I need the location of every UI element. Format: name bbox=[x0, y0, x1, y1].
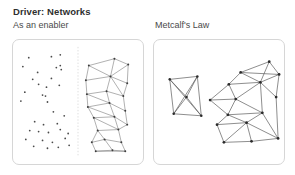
large-network-edge bbox=[260, 82, 262, 113]
panel-metcalfs-law bbox=[153, 39, 285, 165]
scatter-node bbox=[43, 124, 45, 126]
large-network-edge bbox=[241, 72, 279, 74]
left-network-edge bbox=[87, 91, 107, 94]
large-network-edge bbox=[228, 113, 262, 115]
large-network-edge bbox=[224, 141, 252, 142]
scatter-node bbox=[47, 101, 49, 103]
scatter-node bbox=[56, 123, 58, 125]
small-network-node bbox=[185, 96, 188, 99]
left-network-edge bbox=[98, 131, 105, 140]
scatter-node bbox=[52, 141, 54, 143]
scatter-node bbox=[51, 56, 53, 58]
large-network-node bbox=[268, 60, 271, 63]
scatter-node bbox=[22, 66, 24, 68]
large-network-edge bbox=[228, 115, 247, 123]
scatter-node bbox=[45, 95, 47, 97]
large-network-edge bbox=[269, 62, 279, 75]
scatter-node bbox=[55, 67, 57, 69]
left-network-node bbox=[97, 130, 99, 132]
scatter-node bbox=[20, 100, 22, 102]
left-network-node bbox=[126, 82, 128, 84]
left-network-edge bbox=[88, 103, 110, 107]
large-network-node bbox=[226, 113, 229, 116]
scatter-node bbox=[38, 83, 40, 85]
scatter-node bbox=[38, 131, 40, 133]
left-network-edge bbox=[111, 65, 129, 77]
scatter-node bbox=[59, 65, 61, 67]
scatter-node bbox=[25, 139, 27, 141]
large-network-edge bbox=[252, 138, 279, 141]
large-network-node bbox=[275, 96, 278, 99]
large-network-node bbox=[227, 83, 230, 86]
scatter-node bbox=[64, 138, 66, 140]
left-network-edge bbox=[111, 59, 115, 77]
left-network-edge bbox=[94, 117, 115, 118]
left-network-edge bbox=[89, 59, 115, 66]
small-network-edge bbox=[170, 76, 198, 79]
left-network-node bbox=[86, 93, 88, 95]
small-network-node bbox=[172, 113, 175, 116]
large-network-edge bbox=[224, 123, 247, 143]
left-network-edge bbox=[107, 76, 111, 91]
scatter-node bbox=[28, 57, 30, 59]
large-network-edge bbox=[229, 82, 261, 84]
scatter-node bbox=[47, 147, 49, 149]
scatter-node bbox=[57, 146, 59, 148]
small-network-node bbox=[168, 78, 171, 81]
large-network-edge bbox=[210, 100, 228, 115]
large-network-node bbox=[209, 99, 212, 102]
large-network-edge bbox=[229, 72, 241, 84]
left-network-node bbox=[113, 116, 115, 118]
scatter-node bbox=[58, 84, 60, 86]
large-network-node bbox=[250, 140, 253, 143]
large-network-edge bbox=[260, 82, 276, 97]
left-network-node bbox=[109, 102, 111, 104]
slide-canvas: Driver: Networks As an enabler Metcalf's… bbox=[0, 0, 295, 175]
small-network-edge bbox=[197, 76, 201, 115]
scatter-node bbox=[29, 130, 31, 132]
left-network-edge bbox=[107, 91, 110, 103]
left-network-node bbox=[93, 117, 95, 119]
left-network-edge bbox=[127, 65, 128, 84]
large-network-edge bbox=[228, 99, 236, 115]
right-panel-caption: Metcalf's Law bbox=[155, 20, 209, 30]
left-network-edge bbox=[94, 118, 98, 131]
left-network-node bbox=[87, 106, 89, 108]
left-network-edge bbox=[86, 76, 111, 80]
scatter-node bbox=[52, 111, 54, 113]
large-network-node bbox=[278, 73, 281, 76]
left-network-edge bbox=[86, 66, 89, 81]
left-network-edge bbox=[86, 80, 87, 94]
left-network-edge bbox=[92, 131, 98, 143]
left-network-node bbox=[111, 149, 113, 151]
left-network-edge bbox=[123, 96, 125, 111]
left-network-node bbox=[126, 124, 128, 126]
large-network-edge bbox=[241, 72, 261, 82]
left-network-node bbox=[95, 150, 97, 152]
small-network-node bbox=[196, 75, 199, 78]
left-network-node bbox=[110, 75, 112, 77]
left-network-node bbox=[113, 58, 115, 60]
large-network-node bbox=[234, 98, 237, 101]
left-network-edge bbox=[92, 139, 105, 142]
left-network-node bbox=[124, 110, 126, 112]
scatter-node bbox=[51, 77, 53, 79]
scatter-node bbox=[59, 129, 61, 131]
left-network-node bbox=[117, 129, 119, 131]
left-network-edge bbox=[105, 139, 113, 150]
left-network-edge bbox=[98, 130, 119, 131]
left-network-edge bbox=[94, 118, 119, 130]
scatter-node bbox=[67, 133, 69, 135]
large-network-edge bbox=[217, 125, 224, 143]
left-network-node bbox=[122, 95, 124, 97]
large-network-edge bbox=[217, 123, 247, 125]
scatter-node bbox=[33, 145, 35, 147]
page-title: Driver: Networks bbox=[13, 6, 91, 17]
left-panel-diagram bbox=[13, 40, 143, 164]
scatter-node bbox=[24, 91, 26, 93]
small-network-edge bbox=[174, 114, 202, 116]
left-network-node bbox=[127, 64, 129, 66]
large-network-edge bbox=[276, 97, 278, 138]
scatter-node bbox=[42, 94, 44, 96]
left-network-node bbox=[106, 90, 108, 92]
